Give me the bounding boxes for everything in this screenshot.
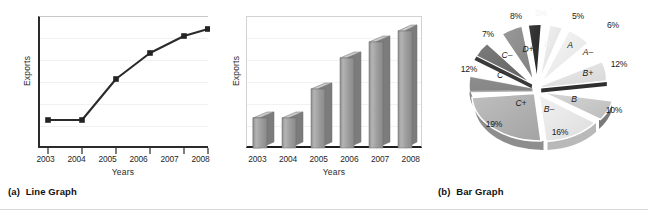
pie-label-pct-b-minus: 16% <box>552 127 569 137</box>
bar-2005 <box>311 83 332 148</box>
panel-line-graph: Exports <box>0 0 216 217</box>
panel-bar-graph: Exports <box>216 0 432 217</box>
bar-2008 <box>398 25 417 148</box>
line-graph-x-axis-label: Years <box>38 167 208 177</box>
panel-pie-chart: 5% A 6% A– 12% B+ 10% B 16% B– 19% C+ 12… <box>432 0 648 217</box>
line-tick-2007: 2007 <box>154 154 185 164</box>
line-graph-x-ticks <box>40 17 210 149</box>
pie-label-pct-b-plus: 12% <box>611 59 628 69</box>
line-tick-2004: 2004 <box>61 154 92 164</box>
line-tick-2008: 2008 <box>185 154 216 164</box>
pie-label-pct-a-minus: 6% <box>607 20 619 30</box>
pie-label-name-b-plus: B+ <box>583 68 594 78</box>
bar-graph-x-tick-labels: 2003 2004 2005 2006 2007 2008 <box>242 154 426 164</box>
pie-label-pct-d: 5% <box>535 8 547 18</box>
bar-2003 <box>253 112 274 148</box>
bar-tick-2008: 2008 <box>395 154 426 164</box>
pie-label-pct-c: 12% <box>461 64 478 74</box>
bar-2004 <box>282 112 303 148</box>
line-graph-plot-area <box>38 16 208 148</box>
pie-label-name-c: C <box>497 70 503 80</box>
figure-three-chart-types: Exports <box>0 0 648 217</box>
line-tick-2005: 2005 <box>92 154 123 164</box>
bar-tick-2006: 2006 <box>334 154 365 164</box>
bar-2006 <box>340 52 361 148</box>
bar-graph-plot-area <box>246 16 422 148</box>
line-graph-y-axis-label: Exports <box>22 41 32 101</box>
caption-line-graph-tag: (a) <box>8 186 20 197</box>
pie-label-name-c-minus: C– <box>502 50 513 60</box>
pie-label-name-a: A <box>567 40 573 50</box>
pie-label-pct-c-plus: 19% <box>486 119 503 129</box>
pie-label-name-c-plus: C+ <box>515 98 526 108</box>
caption-line-graph-label: Line Graph <box>26 186 77 197</box>
bar-graph-series-svg <box>247 17 423 149</box>
pie-chart-graphic: 5% A 6% A– 12% B+ 10% B 16% B– 19% C+ 12… <box>436 2 644 182</box>
pie-label-name-d-plus: D+ <box>522 44 533 54</box>
pie-label-pct-a: 5% <box>572 11 584 21</box>
line-tick-2003: 2003 <box>30 154 61 164</box>
pie-label-name-b-minus: B– <box>544 104 555 114</box>
bar-tick-2005: 2005 <box>303 154 334 164</box>
caption-line-graph: (a) Line Graph <box>8 186 77 197</box>
bar-tick-2003: 2003 <box>242 154 273 164</box>
figure-bottom-divider <box>0 209 648 210</box>
bar-tick-2004: 2004 <box>273 154 304 164</box>
bar-graph-x-axis-label: Years <box>246 167 422 177</box>
pie-label-pct-d-plus: 8% <box>510 11 522 21</box>
pie-label-name-b: B <box>571 94 577 104</box>
bar-tick-2007: 2007 <box>365 154 396 164</box>
pie-slice-c-plus <box>472 94 541 142</box>
bar-2007 <box>369 36 390 148</box>
line-tick-2006: 2006 <box>123 154 154 164</box>
pie-label-name-a-minus: A– <box>583 47 594 57</box>
bar-graph-y-axis-label: Exports <box>231 41 241 101</box>
pie-label-pct-b: 10% <box>606 105 623 115</box>
pie-label-pct-c-minus: 7% <box>482 29 494 39</box>
pie-label-name-d: D <box>544 39 550 49</box>
figure-bottom-spacer <box>0 214 648 217</box>
line-graph-x-tick-labels: 2003 2004 2005 2006 2007 2008 <box>30 154 216 164</box>
